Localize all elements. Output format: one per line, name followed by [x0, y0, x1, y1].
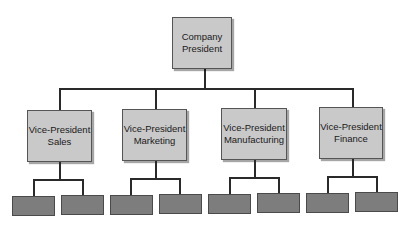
sub-bus-2: [130, 178, 180, 180]
vp-dept: Sales: [48, 136, 72, 148]
vp-title: Vice-President: [124, 123, 186, 135]
sub-bus-4: [327, 176, 377, 178]
sub-drop-4b: [376, 176, 378, 193]
leaf-box: [110, 195, 153, 215]
sub-stem-4: [352, 159, 354, 176]
sub-drop-3b: [278, 177, 280, 194]
leaf-box: [257, 193, 300, 213]
sub-stem-3: [254, 160, 256, 177]
sub-bus-1: [33, 179, 83, 181]
leaf-box: [208, 194, 251, 214]
sub-drop-2a: [130, 178, 132, 195]
sub-drop-3a: [229, 177, 231, 194]
sub-stem-2: [155, 161, 157, 178]
company-president-box: Company President: [172, 17, 232, 69]
leaf-box: [61, 195, 104, 215]
sub-bus-3: [229, 177, 279, 179]
root-line2: President: [182, 43, 222, 55]
vp-drop-2: [155, 88, 157, 109]
vp-sales-box: Vice-President Sales: [27, 110, 92, 162]
vp-bus: [59, 88, 353, 90]
vp-title: Vice-President: [320, 121, 382, 133]
vp-drop-1: [59, 88, 61, 110]
sub-drop-4a: [327, 176, 329, 193]
vp-dept: Marketing: [134, 135, 176, 147]
vp-drop-3: [254, 88, 256, 108]
sub-stem-1: [59, 162, 61, 179]
leaf-box: [12, 196, 55, 216]
vp-dept: Finance: [334, 133, 368, 145]
root-stem: [204, 69, 206, 89]
leaf-box: [306, 193, 349, 213]
leaf-box: [355, 192, 398, 212]
vp-title: Vice-President: [223, 122, 285, 134]
leaf-box: [159, 194, 202, 214]
root-line1: Company: [182, 31, 223, 43]
sub-drop-1b: [82, 179, 84, 196]
vp-finance-box: Vice-President Finance: [319, 107, 383, 159]
vp-manufacturing-box: Vice-President Manufacturing: [221, 108, 287, 160]
vp-title: Vice-President: [29, 124, 91, 136]
sub-drop-1a: [33, 179, 35, 196]
vp-drop-4: [352, 88, 354, 107]
sub-drop-2b: [179, 178, 181, 195]
vp-dept: Manufacturing: [224, 134, 284, 146]
vp-marketing-box: Vice-President Marketing: [122, 109, 187, 161]
